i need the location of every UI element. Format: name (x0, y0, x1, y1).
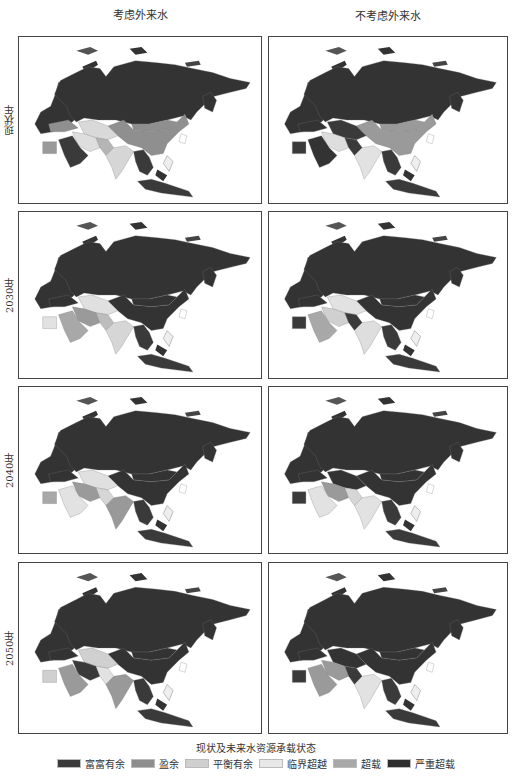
legend-label: 平衡有余 (213, 756, 253, 771)
region-korea (426, 662, 434, 672)
eurasia-map (269, 387, 507, 553)
legend-item-abundant: 富富有余 (57, 756, 125, 771)
legend-item-overloaded: 超载 (333, 756, 381, 771)
region-russia (304, 411, 496, 474)
legend-label: 超载 (361, 756, 381, 771)
region-russia (55, 411, 251, 474)
eurasia-map (19, 563, 261, 733)
region-korea (179, 484, 187, 494)
legend-item-balanced: 平衡有余 (185, 756, 253, 771)
region-indonesia (138, 529, 193, 547)
region-korea (179, 134, 187, 144)
legend-swatch (185, 759, 209, 768)
region-indonesia (138, 354, 193, 372)
region-russia (55, 587, 251, 652)
map-panel-row2-col1 (268, 386, 508, 554)
region-korea (426, 484, 434, 494)
region-indonesia (138, 709, 193, 727)
legend-label: 富富有余 (85, 756, 125, 771)
region-russia (304, 236, 496, 299)
region-russia (55, 236, 251, 299)
legend-item-surplus: 盈余 (131, 756, 179, 771)
eurasia-map (19, 212, 261, 378)
region-indonesia (386, 709, 440, 727)
region-egypt (43, 492, 57, 504)
region-korea (426, 134, 434, 144)
region-egypt (43, 142, 57, 154)
row-label-2050: 2050年 (2, 562, 16, 734)
eurasia-map (269, 563, 507, 733)
legend-label: 临界超越 (287, 756, 327, 771)
map-panel-row1-col0 (18, 211, 262, 379)
region-egypt (292, 670, 306, 682)
region-indonesia (386, 529, 440, 547)
legend-item-severely-overloaded: 严重超载 (387, 756, 455, 771)
region-russia (304, 587, 496, 652)
map-panel-row1-col1 (268, 211, 508, 379)
map-panel-row0-col0 (18, 36, 262, 204)
column-title-without-external-water: 不考虑外来水 (268, 7, 508, 23)
region-russia (304, 61, 496, 124)
legend-swatch (131, 759, 155, 768)
region-egypt (292, 492, 306, 504)
region-egypt (43, 317, 57, 329)
region-egypt (292, 317, 306, 329)
eurasia-map (269, 37, 507, 203)
legend: 富富有余 盈余 平衡有余 临界超越 超载 严重超载 (0, 756, 512, 771)
legend-label: 严重超载 (415, 756, 455, 771)
map-panel-row3-col1 (268, 562, 508, 734)
region-korea (426, 309, 434, 319)
eurasia-map (19, 387, 261, 553)
region-russia (55, 61, 251, 124)
row-label-2030: 2030年 (2, 211, 16, 379)
map-panel-row0-col1 (268, 36, 508, 204)
eurasia-map (269, 212, 507, 378)
legend-swatch (259, 759, 283, 768)
legend-swatch (387, 759, 411, 768)
region-indonesia (138, 179, 193, 197)
region-korea (179, 309, 187, 319)
eurasia-map (19, 37, 261, 203)
map-panel-row3-col0 (18, 562, 262, 734)
region-egypt (292, 142, 306, 154)
legend-swatch (333, 759, 357, 768)
legend-item-critical: 临界超越 (259, 756, 327, 771)
region-indonesia (386, 354, 440, 372)
legend-title: 现状及未来水资源承载状态 (0, 740, 512, 755)
legend-swatch (57, 759, 81, 768)
row-label-2040: 2040年 (2, 386, 16, 554)
row-label-current: 现状年 (2, 36, 16, 204)
column-title-with-external-water: 考虑外来水 (18, 6, 262, 22)
legend-label: 盈余 (159, 756, 179, 771)
region-indonesia (386, 179, 440, 197)
region-korea (179, 662, 187, 672)
region-egypt (43, 670, 57, 682)
map-panel-row2-col0 (18, 386, 262, 554)
